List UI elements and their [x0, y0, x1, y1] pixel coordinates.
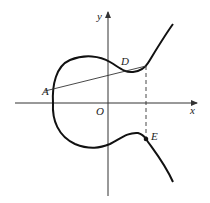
x-axis-label: x — [189, 104, 195, 116]
point-d-label: D — [120, 55, 129, 67]
y-axis-label: y — [96, 10, 102, 22]
point-e-label: E — [150, 130, 158, 142]
origin-label: O — [96, 105, 104, 117]
elliptic-curve-diagram: y x O A D E — [0, 0, 210, 203]
curve-upper-branch — [53, 24, 173, 103]
point-a-label: A — [41, 85, 49, 97]
point-e-marker — [144, 137, 149, 142]
curve-lower-branch — [53, 103, 173, 182]
